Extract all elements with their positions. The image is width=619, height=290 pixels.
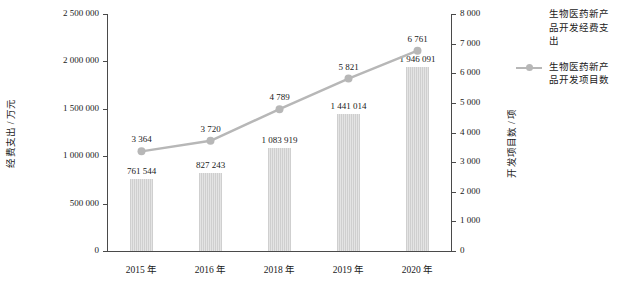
y-axis-left-tick-label: 0	[29, 245, 99, 255]
x-axis-tick-label: 2016 年	[181, 262, 241, 276]
line-value-label: 5 821	[309, 62, 389, 72]
chart-legend: 生物医药新产品开发经费支出 生物医药新产品开发项目数	[516, 8, 616, 100]
line-marker	[138, 147, 146, 155]
line-value-label: 3 720	[171, 124, 251, 134]
line-marker	[414, 47, 422, 55]
y-axis-right-tick-label: 1 000	[460, 215, 520, 225]
y-axis-right-tick-label: 7 000	[460, 38, 520, 48]
y-axis-left-tick-label: 500 000	[29, 198, 99, 208]
line-marker	[276, 105, 284, 113]
line-marker-swatch-icon	[516, 63, 542, 74]
y-axis-left-tick-label: 2 000 000	[29, 55, 99, 65]
legend-label-expenditure: 生物医药新产品开发经费支出	[549, 8, 615, 49]
line-marker	[345, 75, 353, 83]
line-value-label: 3 364	[102, 134, 182, 144]
y-axis-right-tick-label: 2 000	[460, 186, 520, 196]
chart-figure: 经费支出 / 万元 开发项目数 / 项 0500 0001 000 0001 5…	[0, 0, 619, 290]
line-series	[107, 14, 452, 252]
y-axis-right-tick-label: 6 000	[460, 67, 520, 77]
line-value-label: 6 761	[378, 34, 458, 44]
legend-item-project-count: 生物医药新产品开发项目数	[516, 61, 616, 88]
line-marker	[207, 137, 215, 145]
plot-area: 0500 0001 000 0001 500 0002 000 0002 500…	[107, 14, 452, 252]
legend-item-expenditure: 生物医药新产品开发经费支出	[516, 8, 616, 49]
y-axis-right-tick-label: 4 000	[460, 127, 520, 137]
bar-swatch-icon	[516, 10, 542, 21]
x-axis-tick-label: 2019 年	[319, 262, 379, 276]
y-axis-right-tick-label: 3 000	[460, 156, 520, 166]
x-axis-tick-label: 2020 年	[388, 262, 448, 276]
y-axis-right-tick-label: 8 000	[460, 8, 520, 18]
x-axis-tick-label: 2018 年	[250, 262, 310, 276]
y-axis-left-tick-label: 1 000 000	[29, 150, 99, 160]
y-axis-right-tick-label: 5 000	[460, 97, 520, 107]
legend-label-project-count: 生物医药新产品开发项目数	[549, 61, 615, 88]
y-axis-left-tick-label: 1 500 000	[29, 103, 99, 113]
y-axis-right-tick-label: 0	[460, 245, 520, 255]
x-axis-tick-label: 2015 年	[112, 262, 172, 276]
line-value-label: 4 789	[240, 92, 320, 102]
y-axis-left-title: 经费支出 / 万元	[3, 85, 17, 181]
y-axis-left-tick-label: 2 500 000	[29, 8, 99, 18]
